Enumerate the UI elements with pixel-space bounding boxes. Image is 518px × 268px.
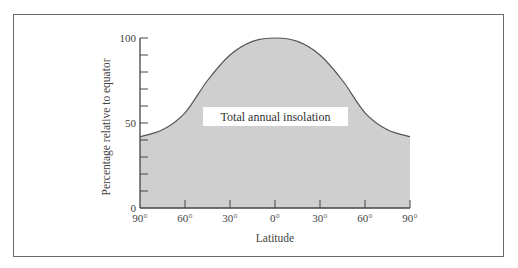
x-tick-label: 90° xyxy=(402,212,417,224)
x-axis-title: Latitude xyxy=(256,232,294,244)
series-annotation: Total annual insolation xyxy=(203,107,348,126)
x-tick-label: 30° xyxy=(222,212,237,224)
y-tick-label: 100 xyxy=(120,32,137,44)
insolation-area-chart: 050100 90°60°30°0°30°60°90° Percentage r… xyxy=(0,0,518,268)
x-tick-labels: 90°60°30°0°30°60°90° xyxy=(132,212,417,224)
y-axis-title: Percentage relative to equator xyxy=(100,58,113,195)
x-tick-label: 60° xyxy=(177,212,192,224)
annotation-label: Total annual insolation xyxy=(221,110,331,124)
x-tick-label: 30° xyxy=(312,212,327,224)
x-tick-label: 60° xyxy=(357,212,372,224)
y-tick-label: 50 xyxy=(125,117,137,129)
x-tick-label: 0° xyxy=(270,212,280,224)
y-tick-labels: 050100 xyxy=(120,32,137,214)
x-tick-label: 90° xyxy=(132,212,147,224)
